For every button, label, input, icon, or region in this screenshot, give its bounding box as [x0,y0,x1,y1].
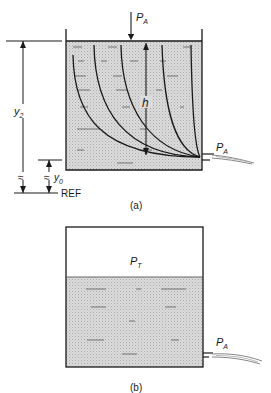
label-pt: PT [130,255,142,269]
outlet-pipe-b [203,353,262,364]
fluid-region-a [66,41,202,170]
fluid-region-b [66,277,203,367]
label-pa-top: PA [136,11,148,25]
caption-b: (b) [130,382,142,393]
break-symbol-y2: ≈ [18,172,24,183]
y0-dimension: ≈ y0 [38,160,63,193]
panel-b: PT PA (b) [66,227,262,393]
label-y0: y0 [53,172,63,185]
fluid-tank-diagram: PA h PA ≈ y2 [0,0,271,393]
y2-dimension: ≈ y2 [6,41,62,193]
outlet-pipe-a [202,154,254,164]
label-h: h [142,96,149,110]
label-pa-outlet-b: PA [216,336,228,350]
caption-a: (a) [130,200,142,211]
break-symbol-y0: ≈ [44,172,50,183]
label-ref: REF [61,188,81,199]
panel-a: PA h PA ≈ y2 [6,11,254,211]
label-pa-outlet-a: PA [216,141,228,155]
